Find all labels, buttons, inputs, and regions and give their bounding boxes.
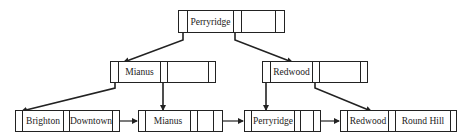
key-cell-empty [301, 111, 314, 131]
next-leaf-pointer-cell [451, 111, 456, 131]
b-plus-tree-diagram: Perryridge Mianus Redwood Brighton Downt… [0, 0, 470, 140]
key-cell-empty [168, 62, 209, 82]
key-cell-empty [320, 62, 361, 82]
key-cell: Downtown [70, 111, 113, 131]
key-cell-empty [242, 11, 276, 32]
key-cell-empty [198, 111, 214, 131]
next-leaf-pointer-cell [113, 111, 119, 131]
pointer-cell [179, 11, 188, 32]
pointer-cell [234, 11, 242, 32]
pointer-cell [161, 62, 168, 82]
key-cell: Perryridge [188, 11, 234, 32]
key-cell: Brighton [23, 111, 64, 131]
edge-root-to-mianus [124, 22, 183, 62]
pointer-cell [341, 111, 348, 131]
leaf-node-brighton-downtown: Brighton Downtown [15, 110, 120, 132]
internal-node-mianus: Mianus [110, 61, 216, 83]
key-cell: Redwood [271, 62, 313, 82]
pointer-cell [263, 62, 271, 82]
next-leaf-pointer-cell [214, 111, 222, 131]
pointer-cell [313, 62, 320, 82]
leaf-node-mianus: Mianus [138, 110, 223, 132]
edge-mianus-to-brighton-leaf [22, 72, 115, 111]
key-cell: Perryridge [252, 111, 295, 131]
internal-node-redwood: Redwood [262, 61, 368, 83]
key-cell: Mianus [146, 111, 191, 131]
leaf-node-redwood-roundhill: Redwood Round Hill [340, 110, 457, 132]
key-cell: Round Hill [396, 111, 451, 131]
pointer-cell [389, 111, 396, 131]
pointer-cell [245, 111, 252, 131]
pointer-cell [276, 11, 284, 32]
pointer-cell [16, 111, 23, 131]
key-cell: Redwood [348, 111, 389, 131]
key-cell: Mianus [119, 62, 161, 82]
root-node: Perryridge [178, 10, 285, 33]
pointer-cell [361, 62, 367, 82]
pointer-cell [111, 62, 119, 82]
next-leaf-pointer-cell [314, 111, 320, 131]
pointer-cell [139, 111, 146, 131]
pointer-cell [191, 111, 198, 131]
pointer-cell [209, 62, 215, 82]
leaf-node-perryridge: Perryridge [244, 110, 321, 132]
